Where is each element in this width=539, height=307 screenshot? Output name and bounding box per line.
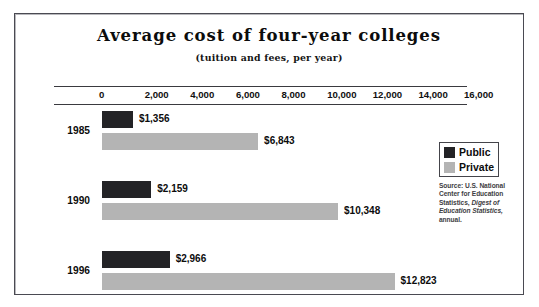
x-axis-tick-label: 0 (99, 89, 104, 100)
source-line-5: annual. (439, 216, 462, 223)
x-axis-tick-label: 14,000 (418, 89, 447, 100)
chart-figure: Average cost of four-year colleges (tuit… (14, 13, 524, 295)
bar-value-label: $2,159 (157, 183, 188, 194)
chart-legend: Public Private (439, 142, 499, 177)
legend-swatch-private-icon (444, 162, 455, 173)
bar-public (102, 251, 170, 268)
bar-row: $6,843 (54, 133, 467, 150)
bar-value-label: $2,966 (176, 253, 207, 264)
bar-group: 1996$2,966$12,823 (54, 251, 467, 290)
bar-private (102, 133, 258, 150)
x-axis-tick-label: 12,000 (373, 89, 402, 100)
legend-item-private: Private (444, 161, 494, 174)
bar-row: $1,356 (54, 111, 467, 128)
x-axis-tick-label: 10,000 (327, 89, 356, 100)
x-axis-tick-label: 6,000 (236, 89, 260, 100)
plot-area: 1985$1,356$6,8431990$2,159$10,3481996$2,… (54, 103, 467, 283)
bar-value-label: $6,843 (264, 135, 295, 146)
bar-row: $10,348 (54, 203, 467, 220)
x-axis-tick-label: 4,000 (190, 89, 214, 100)
bar-row: $2,966 (54, 251, 467, 268)
legend-label-private: Private (459, 162, 494, 173)
source-line-4-italic: Education Statistics, (439, 207, 503, 214)
chart-title: Average cost of four-year colleges (15, 26, 523, 45)
legend-label-public: Public (459, 147, 491, 158)
bar-value-label: $1,356 (139, 113, 170, 124)
bar-group: 1990$2,159$10,348 (54, 181, 467, 220)
source-note: Source: U.S. National Center for Educati… (439, 182, 511, 224)
legend-item-public: Public (444, 146, 491, 159)
bar-private (102, 273, 395, 290)
bar-value-label: $12,823 (401, 275, 437, 286)
bar-row: $2,159 (54, 181, 467, 198)
source-line-3-italic: Digest of (471, 199, 499, 206)
source-line-2: Center for Education (439, 190, 503, 197)
source-line-1: Source: U.S. National (439, 182, 505, 189)
x-axis-tick-label: 2,000 (145, 89, 169, 100)
chart-subtitle: (tuition and fees, per year) (15, 52, 523, 63)
bar-row: $12,823 (54, 273, 467, 290)
x-axis-tick-label: 8,000 (282, 89, 306, 100)
bar-group: 1985$1,356$6,843 (54, 111, 467, 150)
bar-value-label: $10,348 (344, 205, 380, 216)
bar-public (102, 181, 151, 198)
source-line-3: Statistics, (439, 199, 471, 206)
bar-public (102, 111, 133, 128)
legend-swatch-public-icon (444, 147, 455, 158)
x-axis-tick-label: 16,000 (464, 89, 493, 100)
bar-private (102, 203, 338, 220)
